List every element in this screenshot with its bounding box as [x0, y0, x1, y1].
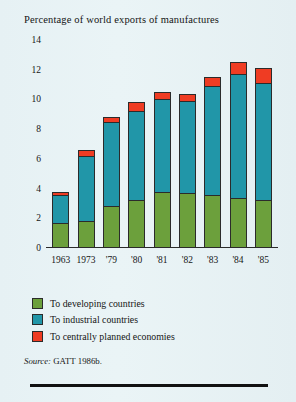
bar-83[interactable]: [204, 77, 221, 248]
y-axis-tick-label: 0: [36, 243, 41, 253]
x-axis-tick-label: '85: [258, 255, 269, 265]
bar-segment-green[interactable]: [128, 200, 145, 248]
bar-segment-green[interactable]: [204, 195, 221, 248]
bar-84[interactable]: [230, 62, 247, 248]
legend-swatch-icon: [32, 331, 43, 342]
bar-segment-blue[interactable]: [255, 83, 272, 200]
bar-segment-blue[interactable]: [52, 195, 69, 223]
bar-82[interactable]: [179, 94, 196, 249]
legend-label: To developing countries: [50, 298, 145, 309]
bar-segment-blue[interactable]: [78, 156, 95, 221]
bar-segment-red[interactable]: [255, 68, 272, 83]
x-axis-tick-label: 1973: [77, 255, 96, 265]
bar-segment-green[interactable]: [154, 192, 171, 248]
bar-segment-green[interactable]: [230, 198, 247, 249]
chart-legend: To developing countriesTo industrial cou…: [32, 296, 175, 346]
plot-area: 02468101214: [48, 40, 276, 248]
source-text: GATT 1986b.: [53, 356, 102, 366]
figure-panel: Percentage of world exports of manufactu…: [0, 0, 296, 402]
bar-segment-blue[interactable]: [154, 99, 171, 191]
x-axis-tick-label: '81: [156, 255, 167, 265]
x-axis-ticks: 19631973'79'80'81'82'83'84'85: [48, 255, 276, 271]
bar-segment-green[interactable]: [179, 193, 196, 248]
bar-segment-red[interactable]: [230, 62, 247, 74]
page-title: Percentage of world exports of manufactu…: [24, 14, 219, 25]
bar-segment-red[interactable]: [154, 92, 171, 99]
legend-item[interactable]: To developing countries: [32, 296, 175, 310]
bar-segment-blue[interactable]: [179, 101, 196, 193]
bottom-rule: [30, 384, 268, 387]
bar-segment-green[interactable]: [103, 206, 120, 248]
legend-item[interactable]: To industrial countries: [32, 313, 175, 327]
x-axis-tick-label: '79: [106, 255, 117, 265]
bar-segment-green[interactable]: [78, 221, 95, 248]
x-axis-tick-label: '80: [131, 255, 142, 265]
y-axis-tick-label: 2: [36, 213, 41, 223]
x-axis-tick-label: '84: [232, 255, 243, 265]
y-axis-tick-label: 6: [36, 154, 41, 164]
legend-swatch-icon: [32, 314, 43, 325]
legend-label: To centrally planned economies: [50, 331, 175, 342]
bar-79[interactable]: [103, 117, 120, 248]
bar-segment-red[interactable]: [128, 102, 145, 111]
source-prefix: Source:: [24, 356, 51, 366]
bar-segment-green[interactable]: [52, 223, 69, 248]
bar-85[interactable]: [255, 68, 272, 248]
bar-1963[interactable]: [52, 192, 69, 248]
x-axis-line: [46, 247, 278, 248]
x-axis-tick-label: 1963: [51, 255, 70, 265]
y-axis-tick-label: 8: [36, 124, 41, 134]
bar-segment-green[interactable]: [255, 200, 272, 248]
bar-segment-blue[interactable]: [230, 74, 247, 197]
bar-81[interactable]: [154, 92, 171, 248]
bar-80[interactable]: [128, 102, 145, 248]
legend-item[interactable]: To centrally planned economies: [32, 329, 175, 343]
y-axis-tick-label: 4: [36, 184, 41, 194]
x-axis-tick-label: '83: [207, 255, 218, 265]
x-axis-tick-label: '82: [182, 255, 193, 265]
legend-label: To industrial countries: [50, 314, 138, 325]
bar-1973[interactable]: [78, 150, 95, 248]
legend-swatch-icon: [32, 298, 43, 309]
bar-segment-blue[interactable]: [128, 111, 145, 200]
y-axis-tick-label: 10: [32, 94, 42, 104]
bar-segment-red[interactable]: [204, 77, 221, 86]
y-axis-tick-label: 12: [32, 65, 42, 75]
bar-segment-blue[interactable]: [103, 122, 120, 207]
y-axis-tick-label: 14: [32, 35, 42, 45]
bar-segment-blue[interactable]: [204, 86, 221, 194]
source-note: Source: GATT 1986b.: [24, 356, 102, 366]
bar-segment-red[interactable]: [179, 94, 196, 101]
